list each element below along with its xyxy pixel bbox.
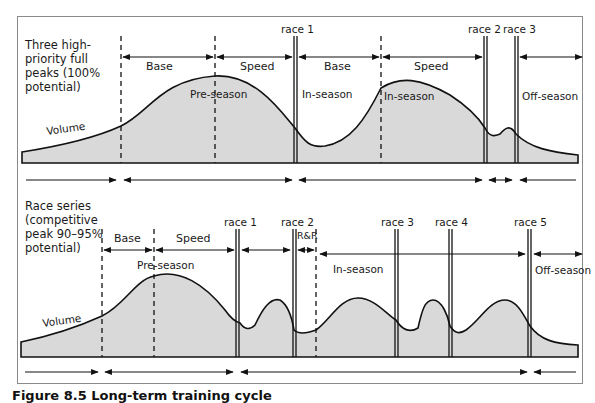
phase-label-in-season: In-season	[302, 88, 352, 100]
race-label: race 3	[381, 216, 414, 228]
panel-description-line: peak 90–95%	[25, 227, 103, 241]
phase-label-in-season: In-season	[333, 263, 383, 275]
panel-description-line: potential)	[25, 241, 81, 255]
race-label: race 2	[468, 23, 501, 35]
segment-label-speed: Speed	[240, 60, 274, 73]
volume-area	[21, 274, 578, 357]
phase-label-pre-season: Pre-season	[137, 259, 194, 271]
phase-label-off-season: Off-season	[522, 90, 578, 102]
volume-label: Volume	[46, 120, 86, 137]
panel-description-line: peaks (100%	[25, 66, 100, 80]
panel-description-line: (competitive	[25, 213, 98, 227]
panel-description-line: potential)	[25, 80, 81, 94]
panel-description-line: priority full	[25, 52, 88, 66]
phase-label-in-season: In-season	[384, 90, 434, 102]
panel-full-peaks: Three high- priority full peaks (100% po…	[22, 23, 582, 180]
panel-description-line: Three high-	[24, 38, 91, 52]
race-label: race 1	[281, 23, 314, 35]
race-label: race 5	[514, 216, 547, 228]
panel-race-series: Race series (competitive peak 90–95% pot…	[21, 199, 591, 372]
race-label: race 1	[224, 216, 257, 228]
race-label: race 2	[281, 216, 314, 228]
segment-label-speed: Speed	[414, 60, 448, 73]
panel-description-line: Race series	[25, 199, 91, 213]
segment-label-base: Base	[114, 232, 141, 245]
race-label: race 3	[503, 23, 536, 35]
segment-label-speed: Speed	[176, 232, 210, 245]
segment-label-rr: R&R	[297, 230, 318, 241]
phase-label-off-season: Off-season	[535, 264, 591, 276]
segment-label-base: Base	[324, 60, 351, 73]
phase-label-pre-season: Pre-season	[190, 88, 247, 100]
figure-caption: Figure 8.5 Long-term training cycle	[12, 388, 272, 403]
race-label: race 4	[435, 216, 468, 228]
segment-label-base: Base	[146, 60, 173, 73]
volume-area	[22, 76, 578, 163]
